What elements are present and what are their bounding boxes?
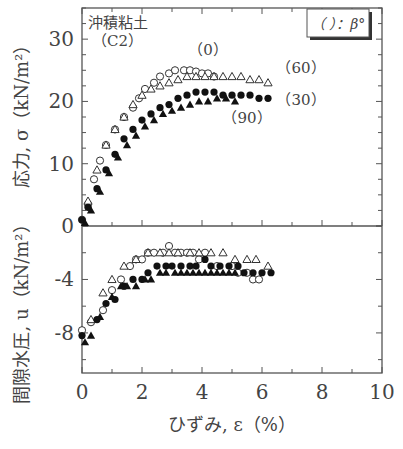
plot-frame: [82, 8, 382, 373]
x-axis-title: ひずみ, ε（%）: [168, 414, 296, 435]
open-triangle-marker: [252, 255, 260, 262]
filled-circle-marker: [192, 88, 199, 95]
filled-circle-marker: [120, 135, 127, 142]
y-tick-label: 20: [49, 89, 74, 113]
filled-circle-marker: [207, 262, 214, 269]
filled-circle-marker: [267, 269, 274, 276]
filled-circle-marker: [264, 95, 271, 102]
open-circle-marker: [255, 276, 262, 283]
x-tick-label: 8: [316, 380, 329, 404]
series-label: （30）: [276, 91, 325, 109]
x-tick-label: 6: [256, 380, 269, 404]
filled-triangle-marker: [177, 104, 185, 111]
y-axis-title-bottom: 間隙水圧, u（kN/m²）: [11, 215, 32, 403]
open-triangle-marker: [255, 76, 263, 83]
filled-triangle-marker: [204, 97, 212, 104]
filled-triangle-marker: [87, 331, 95, 338]
filled-circle-marker: [255, 95, 262, 102]
open-circle-marker: [99, 307, 106, 314]
filled-circle-marker: [129, 126, 136, 133]
filled-circle-marker: [258, 269, 265, 276]
plot-axes: 02468100102030-8-4: [49, 8, 395, 404]
open-circle-marker: [90, 176, 97, 183]
filled-circle-marker: [210, 88, 217, 95]
open-triangle-marker: [219, 72, 227, 79]
y-tick-label: 10: [49, 152, 74, 176]
series-label: （60）: [276, 59, 325, 77]
x-tick-label: 2: [136, 380, 149, 404]
filled-circle-marker: [240, 269, 247, 276]
filled-circle-marker: [201, 88, 208, 95]
open-triangle-marker: [243, 255, 251, 262]
filled-circle-marker: [174, 95, 181, 102]
x-tick-label: 4: [196, 380, 209, 404]
filled-triangle-marker: [162, 269, 170, 276]
filled-circle-marker: [165, 101, 172, 108]
filled-circle-marker: [234, 262, 241, 269]
filled-circle-marker: [183, 92, 190, 99]
open-triangle-marker: [237, 72, 245, 79]
x-tick-label: 10: [369, 380, 394, 404]
filled-circle-marker: [246, 92, 253, 99]
open-triangle-marker: [99, 289, 107, 296]
open-triangle-marker: [246, 76, 254, 83]
sample-label: （C2）: [92, 32, 143, 50]
filled-triangle-marker: [132, 282, 140, 289]
filled-circle-marker: [138, 117, 145, 124]
filled-circle-marker: [192, 262, 199, 269]
filled-circle-marker: [129, 276, 136, 283]
open-circle-marker: [156, 73, 163, 80]
filled-triangle-marker: [195, 97, 203, 104]
filled-circle-marker: [102, 300, 109, 307]
y-tick-label: -4: [55, 267, 74, 291]
series-label: （90）: [222, 109, 271, 127]
open-triangle-marker: [264, 79, 272, 86]
open-triangle-marker: [93, 166, 101, 173]
stress-pore-pressure-chart: 02468100102030-8-4 （0）（60）（30）（90）沖積粘土（C…: [0, 0, 403, 449]
open-circle-marker: [96, 157, 103, 164]
filled-triangle-marker: [147, 275, 155, 282]
y-axis-title-top: 応力, σ（kN/m²）: [11, 36, 32, 189]
filled-circle-marker: [78, 332, 85, 339]
x-tick-label: 0: [76, 380, 89, 404]
series-label: （0）: [188, 41, 228, 59]
open-circle-marker: [171, 67, 178, 74]
filled-circle-marker: [249, 269, 256, 276]
filled-circle-marker: [156, 104, 163, 111]
filled-circle-marker: [237, 92, 244, 99]
filled-circle-marker: [225, 262, 232, 269]
y-tick-label: 30: [49, 27, 74, 51]
open-triangle-marker: [165, 79, 173, 86]
open-triangle-marker: [228, 72, 236, 79]
open-circle-marker: [108, 287, 115, 294]
filled-circle-marker: [153, 262, 160, 269]
open-triangle-marker: [174, 76, 182, 83]
open-triangle-marker: [129, 100, 137, 107]
y-tick-label: 0: [61, 214, 74, 238]
filled-circle-marker: [177, 262, 184, 269]
open-triangle-marker: [108, 275, 116, 282]
filled-triangle-marker: [186, 100, 194, 107]
site-label: 沖積粘土: [88, 14, 148, 32]
filled-circle-marker: [144, 269, 151, 276]
open-triangle-marker: [84, 197, 92, 204]
legend-text: （ ）：β°: [311, 16, 366, 32]
open-triangle-marker: [264, 262, 272, 269]
filled-circle-marker: [168, 262, 175, 269]
open-circle-marker: [117, 276, 124, 283]
y-tick-label: -8: [55, 321, 74, 345]
open-triangle-marker: [219, 249, 227, 256]
filled-circle-marker: [228, 92, 235, 99]
filled-circle-marker: [201, 256, 208, 263]
filled-circle-marker: [147, 110, 154, 117]
filled-circle-marker: [216, 262, 223, 269]
open-triangle-marker: [231, 255, 239, 262]
